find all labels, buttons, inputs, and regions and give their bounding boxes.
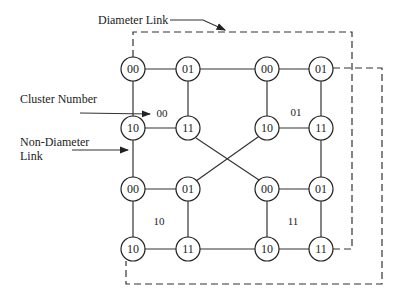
diameter-link-arrow (170, 20, 225, 30)
diameter-link-label: Diameter Link (98, 13, 168, 27)
node-c11-01: 01 (309, 177, 333, 201)
node-c01-01: 01 (309, 57, 333, 81)
node-c00-10: 10 (121, 116, 145, 140)
cluster-label-00: 00 (157, 107, 169, 119)
non-diameter-link-label-1: Non-Diameter (20, 135, 89, 149)
svg-text:00: 00 (261, 182, 273, 196)
svg-text:10: 10 (127, 242, 139, 256)
cluster-number-label: Cluster Number (20, 92, 97, 106)
node-c11-10: 10 (255, 237, 279, 261)
non-diameter-link-label-2: Link (20, 149, 43, 163)
cluster-network-diagram: 00 01 10 11 00 01 10 11 00 01 10 11 00 0… (0, 0, 403, 300)
cluster-label-01: 01 (291, 106, 302, 118)
svg-text:01: 01 (315, 182, 327, 196)
node-c01-10: 10 (255, 116, 279, 140)
cluster-label-10: 10 (154, 215, 166, 227)
svg-text:10: 10 (261, 121, 273, 135)
svg-text:10: 10 (261, 242, 273, 256)
svg-text:11: 11 (182, 121, 194, 135)
cluster-label-11: 11 (288, 215, 299, 227)
cluster-number-arrow (80, 113, 150, 114)
node-c11-11: 11 (309, 237, 333, 261)
svg-text:10: 10 (127, 121, 139, 135)
svg-text:01: 01 (315, 62, 327, 76)
svg-text:00: 00 (127, 62, 139, 76)
svg-text:11: 11 (315, 242, 327, 256)
svg-text:00: 00 (127, 182, 139, 196)
node-c01-11: 11 (309, 116, 333, 140)
svg-text:01: 01 (182, 182, 194, 196)
node-c00-00: 00 (121, 57, 145, 81)
svg-text:01: 01 (182, 62, 194, 76)
node-c10-11: 11 (176, 237, 200, 261)
svg-text:11: 11 (315, 121, 327, 135)
node-c00-11: 11 (176, 116, 200, 140)
node-c10-10: 10 (121, 237, 145, 261)
node-c00-01: 01 (176, 57, 200, 81)
node-c10-01: 01 (176, 177, 200, 201)
svg-text:11: 11 (182, 242, 194, 256)
node-c01-00: 00 (255, 57, 279, 81)
node-c11-00: 00 (255, 177, 279, 201)
node-c10-00: 00 (121, 177, 145, 201)
svg-text:00: 00 (261, 62, 273, 76)
